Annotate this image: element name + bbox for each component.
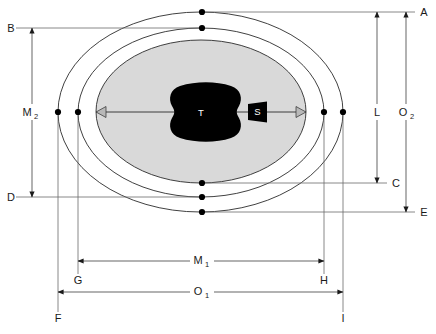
- marker-D-bottom: [199, 194, 205, 200]
- marker-H-right: [321, 109, 327, 115]
- technical-diagram: T S: [0, 0, 436, 334]
- marker-F-left: [55, 109, 61, 115]
- edge-label-A: A: [420, 6, 428, 18]
- edge-label-I: I: [341, 312, 344, 324]
- marker-A-top: [199, 9, 205, 15]
- edge-label-C: C: [392, 177, 400, 189]
- dimension-label-M2-base: M: [22, 106, 31, 118]
- edge-label-E: E: [420, 206, 427, 218]
- dimension-label-O1-sub: 1: [205, 291, 209, 300]
- dimension-label-M1-sub: 1: [205, 260, 209, 269]
- marker-G-left: [75, 109, 81, 115]
- edge-label-D: D: [7, 191, 15, 203]
- marker-I-right: [340, 109, 346, 115]
- dimension-label-L: L: [374, 106, 380, 118]
- dimension-label-M2-sub: 2: [34, 112, 38, 121]
- edge-label-G: G: [74, 274, 83, 286]
- satellite-marker-label: S: [254, 106, 260, 117]
- marker-E-bottom: [199, 209, 205, 215]
- dimension-label-O2-sub: 2: [410, 112, 414, 121]
- edge-label-F: F: [55, 312, 62, 324]
- dimension-label-O1-base: O: [194, 285, 203, 297]
- central-mass-label: T: [198, 107, 204, 118]
- edge-label-B: B: [7, 22, 14, 34]
- central-mass-shape: [170, 82, 241, 142]
- dimension-label-L-base: L: [374, 106, 380, 118]
- marker-C-bottom: [199, 180, 205, 186]
- dimension-label-M1-base: M: [193, 254, 202, 266]
- edge-label-H: H: [320, 274, 328, 286]
- dimension-label-O2-base: O: [399, 106, 408, 118]
- marker-B-top: [199, 25, 205, 31]
